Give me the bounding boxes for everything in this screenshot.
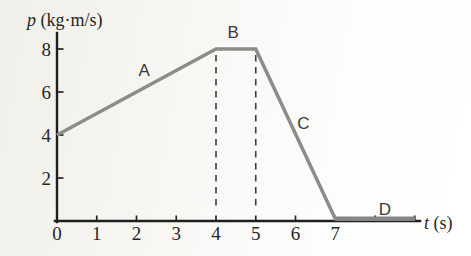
segment-label-c: C [297,114,309,133]
y-axis-units: (kg·m/s) [36,10,103,31]
y-tick-label: 8 [42,39,52,60]
y-tick-label: 4 [42,125,52,146]
x-axis-title: t (s) [424,213,453,234]
y-tick-label: 6 [42,82,52,103]
x-tick-label: 1 [92,223,102,244]
x-tick-label: 3 [172,223,182,244]
x-tick-label: 6 [291,223,301,244]
y-axis-symbol: p [25,10,36,30]
momentum-line [57,49,415,219]
x-tick-label: 7 [331,223,341,244]
x-tick-label: 4 [211,223,221,244]
y-axis-title: p (kg·m/s) [25,10,103,31]
x-axis-units: (s) [429,213,453,234]
segment-label-b: B [227,23,238,42]
plot-canvas: p (kg·m/s) t (s) 012345672468ABCD [0,0,471,256]
y-tick-label: 2 [42,168,52,189]
segment-label-d: D [379,200,391,219]
x-tick-label: 2 [132,223,142,244]
x-tick-label: 0 [52,223,62,244]
segment-label-a: A [138,61,150,80]
x-tick-label: 5 [251,223,261,244]
momentum-vs-time-graph: p (kg·m/s) t (s) 012345672468ABCD [0,0,471,256]
